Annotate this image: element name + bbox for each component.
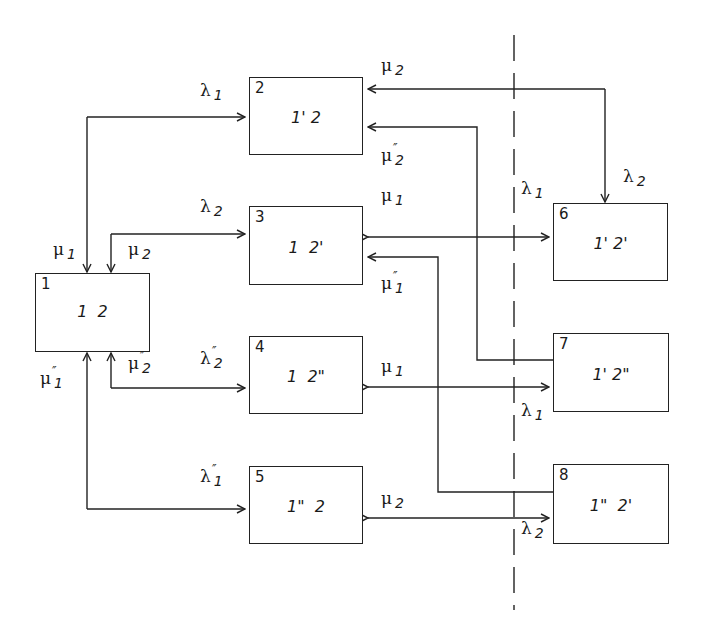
state-label: 1' 2 xyxy=(250,108,362,127)
state-8: 8 1" 2' xyxy=(553,464,669,544)
state-id: 3 xyxy=(255,208,265,226)
state-label: 1" 2 xyxy=(250,497,362,516)
rate-lambda2-1to3: λ2 xyxy=(200,198,223,215)
state-id: 7 xyxy=(559,335,569,353)
state-6: 6 1' 2' xyxy=(553,203,668,281)
rate-lambda2-5to8: λ2 xyxy=(521,520,544,537)
state-label: 1' 2" xyxy=(554,365,668,384)
rate-mu2pp-7to2: μ″2 xyxy=(381,147,404,164)
state-3: 3 1 2' xyxy=(249,206,363,285)
state-2: 2 1' 2 xyxy=(249,77,363,155)
state-id: 1 xyxy=(41,275,51,293)
rate-mu1pp-5to1: μ″1 xyxy=(40,370,63,387)
state-label: 1 2 xyxy=(36,302,149,321)
state-label: 1 2' xyxy=(250,238,362,257)
state-7: 7 1' 2" xyxy=(553,333,669,412)
state-5: 5 1" 2 xyxy=(249,466,363,544)
rate-mu1pp-8to3: μ″1 xyxy=(381,275,404,292)
state-id: 8 xyxy=(559,466,569,484)
rate-lambda1-4to7: λ1 xyxy=(521,402,544,419)
state-id: 5 xyxy=(255,468,265,486)
rate-mu1-2to1: μ1 xyxy=(53,241,76,258)
rate-mu2-6to2: μ2 xyxy=(381,57,404,74)
rate-lambda2pp-1to4: λ″2 xyxy=(200,350,223,367)
rate-mu1-7to4: μ1 xyxy=(381,358,404,375)
rate-lambda2-2to6: λ2 xyxy=(623,168,646,185)
state-4: 4 1 2" xyxy=(249,336,363,414)
rate-lambda1pp-1to5: λ″1 xyxy=(200,468,223,485)
state-1: 1 1 2 xyxy=(35,273,150,352)
state-label: 1' 2' xyxy=(554,234,667,253)
state-id: 4 xyxy=(255,338,265,356)
rate-lambda1-1to2: λ1 xyxy=(200,82,223,99)
rate-mu2pp-4to1: μ″2 xyxy=(128,355,151,372)
state-label: 1" 2' xyxy=(554,496,668,515)
rate-mu1-6to3: μ1 xyxy=(381,187,404,204)
state-id: 6 xyxy=(559,205,569,223)
state-label: 1 2" xyxy=(250,367,362,386)
rate-mu2-8to5: μ2 xyxy=(381,490,404,507)
state-id: 2 xyxy=(255,79,265,97)
rate-lambda1-3to6: λ1 xyxy=(521,180,544,197)
rate-mu2-3to1: μ2 xyxy=(128,241,151,258)
